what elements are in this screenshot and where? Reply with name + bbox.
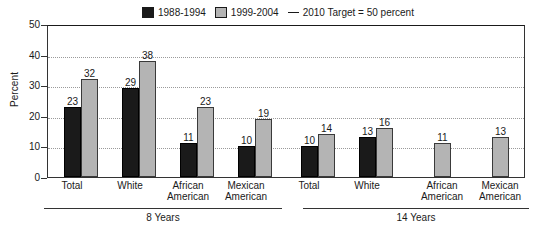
bar-8y-african-american-1999-2004: 23 <box>197 107 214 177</box>
x-label-14y-african-american: African American <box>410 180 474 202</box>
group-rule-8-years <box>44 208 282 209</box>
target-line-swatch-icon <box>288 12 299 13</box>
bar-8y-white-1988-1994: 29 <box>122 88 139 177</box>
bar-value-label: 16 <box>379 118 390 128</box>
y-tick-label-40: 40 <box>18 51 40 61</box>
y-tick-label-50: 50 <box>18 20 40 30</box>
legend-entry-1988-1994: 1988-1994 <box>142 7 206 18</box>
group-label-8-years: 8 Years <box>44 212 282 223</box>
x-label-8y-total: Total <box>40 180 104 191</box>
plot-area: 23 32 29 38 11 23 10 19 10 <box>47 25 525 178</box>
x-label-8y-african-american: African American <box>156 180 220 202</box>
bar-value-label: 10 <box>241 136 252 146</box>
bar-14y-mexican-american-1999-2004: 13 <box>492 137 509 177</box>
bar-8y-total-1988-1994: 23 <box>64 107 81 177</box>
group-label-14-years: 14 Years <box>303 212 529 223</box>
light-square-swatch-icon <box>215 7 227 18</box>
bar-value-label: 13 <box>495 127 506 137</box>
bar-14y-white-1988-1994: 13 <box>359 137 376 177</box>
bar-8y-total-1999-2004: 32 <box>81 79 98 177</box>
bar-value-label: 23 <box>200 97 211 107</box>
y-tick-label-0: 0 <box>18 173 40 183</box>
bar-8y-african-american-1988-1994: 11 <box>180 143 197 177</box>
dark-square-swatch-icon <box>142 7 154 18</box>
legend-entry-1999-2004: 1999-2004 <box>215 7 279 18</box>
gridline-40 <box>48 57 524 58</box>
bar-8y-mexican-american-1999-2004: 19 <box>255 119 272 177</box>
x-label-14y-total: Total <box>277 180 341 191</box>
y-tick-mark-0 <box>41 178 47 179</box>
bar-value-label: 11 <box>437 133 447 143</box>
x-axis-category-labels: Total White African American Mexican Ame… <box>47 180 525 206</box>
gridline-20 <box>48 118 524 119</box>
bar-value-label: 11 <box>183 133 193 143</box>
bar-value-label: 13 <box>362 127 373 137</box>
legend-label: 2010 Target = 50 percent <box>303 7 414 18</box>
y-tick-label-10: 10 <box>18 142 40 152</box>
x-label-14y-white: White <box>335 180 399 191</box>
bar-8y-mexican-american-1988-1994: 10 <box>238 146 255 177</box>
x-label-8y-white: White <box>98 180 162 191</box>
bar-8y-white-1999-2004: 38 <box>139 61 156 177</box>
bar-chart: 1988-1994 1999-2004 2010 Target = 50 per… <box>0 0 539 238</box>
bar-14y-african-american-1999-2004: 11 <box>434 143 451 177</box>
x-label-8y-mexican-american: Mexican American <box>214 180 278 202</box>
bar-value-label: 23 <box>67 97 78 107</box>
bar-14y-white-1999-2004: 16 <box>376 128 393 177</box>
bar-14y-total-1988-1994: 10 <box>301 146 318 177</box>
group-rule-14-years <box>303 208 529 209</box>
bar-value-label: 10 <box>304 136 315 146</box>
bar-value-label: 32 <box>84 69 95 79</box>
legend-label: 1999-2004 <box>231 7 279 18</box>
chart-legend: 1988-1994 1999-2004 2010 Target = 50 per… <box>142 4 414 20</box>
legend-label: 1988-1994 <box>158 7 206 18</box>
y-tick-label-30: 30 <box>18 81 40 91</box>
gridline-30 <box>48 87 524 88</box>
x-label-14y-mexican-american: Mexican American <box>468 180 532 202</box>
bar-value-label: 38 <box>142 51 153 61</box>
bar-value-label: 14 <box>321 124 332 134</box>
y-axis-tick-labels: 0 10 20 30 40 50 <box>16 0 40 238</box>
bar-value-label: 19 <box>258 109 269 119</box>
y-tick-label-20: 20 <box>18 112 40 122</box>
bar-value-label: 29 <box>125 78 136 88</box>
gridline-10 <box>48 148 524 149</box>
footnote-text <box>36 230 456 238</box>
bar-14y-total-1999-2004: 14 <box>318 134 335 177</box>
legend-entry-target-line: 2010 Target = 50 percent <box>288 7 414 18</box>
